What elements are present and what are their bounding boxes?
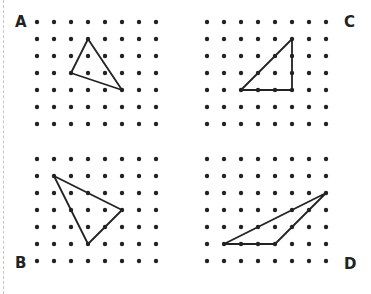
grid-dot — [52, 88, 56, 92]
grid-dot — [205, 242, 209, 246]
grid-dot — [256, 174, 260, 178]
grid-dot — [307, 105, 311, 109]
grid-dot — [137, 242, 141, 246]
grid-dot — [137, 88, 141, 92]
grid-dot — [137, 191, 141, 195]
grid-dot — [307, 122, 311, 126]
grid-dot — [120, 242, 124, 246]
grid-dot — [103, 105, 107, 109]
grid-dot — [239, 122, 243, 126]
grid-dot — [324, 122, 328, 126]
grid-dot — [35, 88, 39, 92]
grid-dot — [69, 225, 73, 229]
grid-dot — [205, 208, 209, 212]
grid-dot — [222, 157, 226, 161]
grid-dot — [256, 105, 260, 109]
grid-dot — [239, 191, 243, 195]
grid-dot — [154, 105, 158, 109]
grid-dot — [35, 174, 39, 178]
grid-dot — [52, 191, 56, 195]
grid-dot — [222, 37, 226, 41]
dot-grid-d — [205, 157, 328, 263]
grid-dot — [120, 37, 124, 41]
grid-dot — [154, 208, 158, 212]
grid-dot — [154, 259, 158, 263]
grid-dot — [35, 71, 39, 75]
grid-dot — [256, 259, 260, 263]
grid-dot — [120, 105, 124, 109]
grid-dot — [120, 20, 124, 24]
grid-dot — [35, 122, 39, 126]
grid-dot — [205, 259, 209, 263]
grid-dot — [103, 37, 107, 41]
grid-dot — [69, 20, 73, 24]
grid-dot — [86, 105, 90, 109]
grid-dot — [290, 157, 294, 161]
grid-dot — [290, 174, 294, 178]
grid-dot — [137, 225, 141, 229]
grid-dot — [222, 174, 226, 178]
grid-dot — [273, 208, 277, 212]
grid-dot — [86, 71, 90, 75]
grid-dot — [222, 259, 226, 263]
grid-dot — [120, 54, 124, 58]
grid-dot — [103, 54, 107, 58]
grid-dot — [256, 20, 260, 24]
grid-dot — [239, 208, 243, 212]
grid-dot — [137, 122, 141, 126]
grid-dot — [307, 259, 311, 263]
grid-dot — [222, 88, 226, 92]
triangle-a — [71, 39, 122, 90]
grid-dot — [137, 20, 141, 24]
grid-dot — [35, 105, 39, 109]
grid-dot — [324, 37, 328, 41]
grid-dot — [239, 225, 243, 229]
grid-dot — [307, 174, 311, 178]
grid-dot — [273, 259, 277, 263]
grid-dot — [69, 157, 73, 161]
grid-dot — [154, 225, 158, 229]
grid-dot — [69, 88, 73, 92]
grid-dot — [222, 71, 226, 75]
grid-dot — [307, 157, 311, 161]
grid-dot — [205, 20, 209, 24]
grid-dot — [103, 259, 107, 263]
grid-dot — [86, 122, 90, 126]
grid-dot — [154, 37, 158, 41]
grid-dot — [324, 20, 328, 24]
grid-dot — [256, 157, 260, 161]
grid-dot — [307, 71, 311, 75]
grid-dot — [120, 122, 124, 126]
grid-dot — [154, 174, 158, 178]
grid-dot — [103, 88, 107, 92]
grid-dot — [103, 208, 107, 212]
grid-dot — [69, 191, 73, 195]
grid-dot — [290, 259, 294, 263]
grid-dot — [324, 157, 328, 161]
grid-dot — [120, 259, 124, 263]
grid-dot — [256, 191, 260, 195]
grid-dot — [137, 208, 141, 212]
grid-dot — [103, 122, 107, 126]
dot-grids-canvas — [0, 0, 371, 294]
grid-dot — [307, 88, 311, 92]
triangle-c — [241, 39, 292, 90]
dot-grid-figure: A C B D — [0, 0, 371, 294]
grid-dot — [86, 88, 90, 92]
grid-dot — [256, 54, 260, 58]
grid-dot — [35, 225, 39, 229]
grid-dot — [52, 20, 56, 24]
grid-dot — [239, 54, 243, 58]
panel-label-c: C — [344, 15, 355, 30]
grid-dot — [154, 54, 158, 58]
grid-dot — [137, 174, 141, 178]
panel-label-d: D — [344, 257, 356, 272]
grid-dot — [35, 191, 39, 195]
grid-dot — [222, 208, 226, 212]
grid-dot — [290, 191, 294, 195]
grid-dot — [103, 174, 107, 178]
grid-dot — [222, 54, 226, 58]
grid-dot — [256, 122, 260, 126]
grid-dot — [86, 20, 90, 24]
grid-dot — [35, 208, 39, 212]
